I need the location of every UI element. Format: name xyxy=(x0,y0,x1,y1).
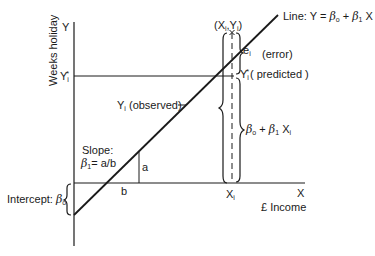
slope-run-label: b xyxy=(121,186,127,197)
observed-label: Yi (observed) xyxy=(117,100,182,112)
slope-label-formula: β1= a/b xyxy=(81,158,116,170)
intercept-label: Intercept: βo xyxy=(7,194,66,206)
observed-point-label: (Xi,Yi) xyxy=(214,20,242,32)
line-equation-label: Line: Y = βo + β1 X xyxy=(283,11,373,23)
slope-label-title: Slope: xyxy=(82,145,113,156)
predicted-label: Yi*( predicted ) xyxy=(240,68,309,81)
fitted-value-label: βo + β1 Xi xyxy=(246,124,291,136)
x-axis-symbol: X xyxy=(297,188,304,199)
y-axis-symbol: Y xyxy=(62,22,69,33)
observed-span-brace xyxy=(219,33,227,183)
error-label-text: (error) xyxy=(262,49,293,60)
x-tick-xi: Xi xyxy=(226,189,235,201)
x-axis-title: £ Income xyxy=(261,202,306,213)
error-label-symbol: ei xyxy=(243,45,251,57)
fitted-value-brace xyxy=(236,78,244,182)
y-tick-predicted: Yi* xyxy=(60,70,69,83)
y-axis-title: Weeks holiday xyxy=(47,15,59,86)
slope-rise-label: a xyxy=(142,162,148,173)
